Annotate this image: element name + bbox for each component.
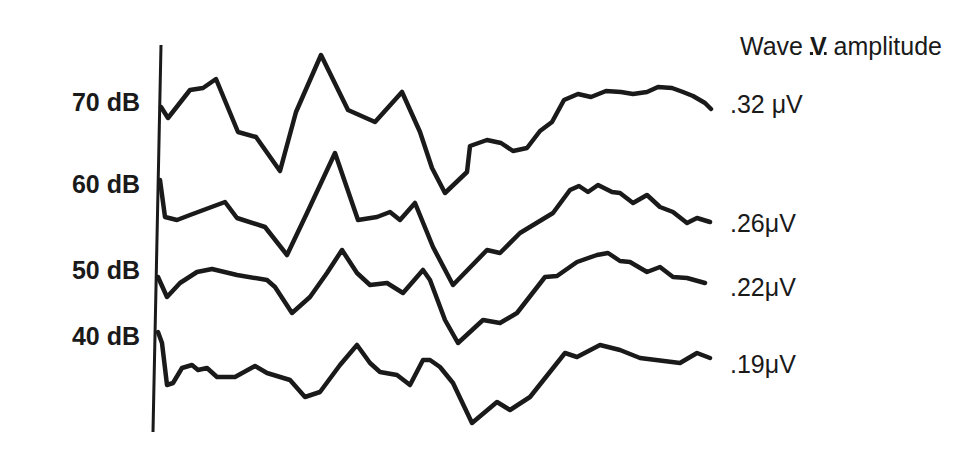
- waveform-70db: [161, 55, 711, 193]
- amplitude-label-40db: .19μV: [730, 352, 796, 377]
- roman-numeral-five: V: [810, 32, 827, 60]
- vertical-axis: [153, 45, 161, 432]
- chart-title: Wave V amplitude: [740, 34, 942, 59]
- level-label-50db: 50 dB: [40, 258, 140, 283]
- amplitude-label-60db: .26μV: [730, 211, 796, 236]
- level-label-60db: 60 dB: [40, 172, 140, 197]
- amplitude-label-50db: .22μV: [730, 275, 796, 300]
- level-label-40db: 40 dB: [40, 324, 140, 349]
- level-label-70db: 70 dB: [40, 90, 140, 115]
- waveform-40db: [158, 332, 710, 423]
- amplitude-label-70db: .32 μV: [730, 92, 803, 117]
- waveform-50db: [158, 250, 705, 343]
- waveform-plot: [0, 0, 964, 466]
